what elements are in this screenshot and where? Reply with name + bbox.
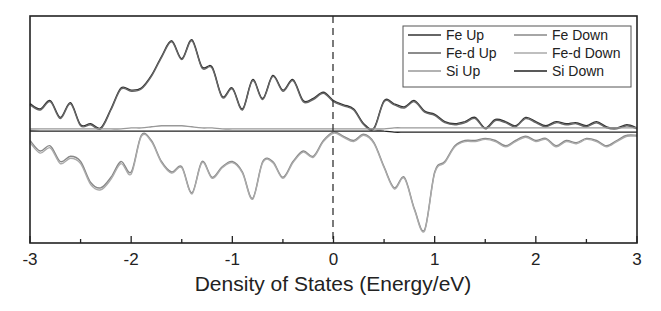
legend-label: Fe Up bbox=[446, 27, 484, 43]
x-tick-label: -3 bbox=[22, 250, 37, 269]
x-axis-title: Density of States (Energy/eV) bbox=[195, 272, 472, 295]
x-axis-tick-labels: -3-2-10123 bbox=[22, 250, 641, 269]
legend: Fe UpFe DownFe-d UpFe-d DownSi UpSi Down bbox=[403, 26, 631, 87]
legend-label: Fe Down bbox=[552, 27, 608, 43]
legend-label: Fe-d Up bbox=[446, 45, 497, 61]
legend-label: Si Up bbox=[446, 63, 480, 79]
dos-chart: -3-2-10123 Density of States (Energy/eV)… bbox=[0, 0, 661, 311]
series-fe-down bbox=[30, 132, 637, 231]
x-tick-label: 0 bbox=[329, 250, 338, 269]
x-tick-label: -1 bbox=[225, 250, 240, 269]
legend-label: Si Down bbox=[552, 63, 604, 79]
x-tick-label: -2 bbox=[124, 250, 139, 269]
x-axis-ticks bbox=[30, 236, 637, 243]
x-tick-label: 1 bbox=[430, 250, 439, 269]
series-fe-d-down bbox=[30, 133, 637, 232]
x-tick-label: 3 bbox=[632, 250, 641, 269]
x-tick-label: 2 bbox=[531, 250, 540, 269]
legend-label: Fe-d Down bbox=[552, 45, 620, 61]
